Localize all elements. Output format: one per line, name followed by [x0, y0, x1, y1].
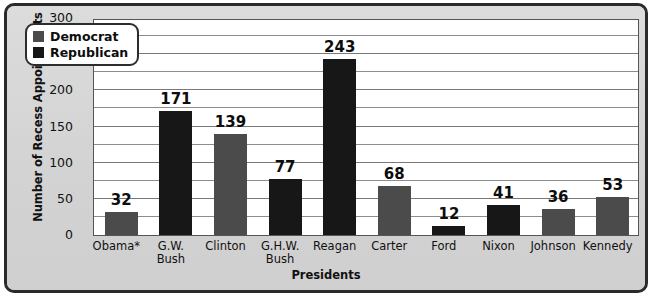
bar-value-label: 36 [528, 188, 589, 206]
bar-value-label: 139 [200, 113, 261, 131]
x-axis-tick-label: Carter [359, 240, 419, 253]
bar-value-label: 32 [91, 191, 152, 209]
bar-group[interactable]: 12 [432, 18, 465, 235]
y-axis-tick-label: 0 [33, 227, 73, 242]
y-axis-tick-label: 50 [33, 191, 73, 206]
bar-group[interactable]: 77 [269, 18, 302, 235]
legend-item-republican: Republican [33, 44, 128, 60]
bar[interactable] [378, 186, 411, 235]
x-axis-tick-label: G.W.Bush [141, 240, 201, 265]
bar-value-label: 68 [364, 165, 425, 183]
y-axis-tick-label: 100 [33, 155, 73, 170]
legend-swatch-republican-icon [33, 47, 44, 58]
legend: Democrat Republican [25, 23, 139, 66]
legend-swatch-democrat-icon [33, 31, 44, 42]
bar[interactable] [432, 226, 465, 235]
chart-screenshot: Number of Recess Appointments Presidents… [0, 0, 652, 299]
x-axis-tick-label: Kennedy [578, 240, 638, 253]
page-frame: Number of Recess Appointments Presidents… [4, 3, 648, 293]
bar-group[interactable]: 53 [596, 18, 629, 235]
legend-label-democrat: Democrat [50, 29, 118, 44]
bar-group[interactable]: 68 [378, 18, 411, 235]
bar-group[interactable]: 41 [487, 18, 520, 235]
bar-group[interactable]: 139 [214, 18, 247, 235]
bar[interactable] [105, 212, 138, 235]
legend-item-democrat: Democrat [33, 28, 128, 44]
bar[interactable] [214, 134, 247, 235]
bar[interactable] [596, 197, 629, 235]
bar-value-label: 12 [418, 205, 479, 223]
x-axis-title: Presidents [7, 268, 645, 282]
bar-group[interactable]: 171 [159, 18, 192, 235]
bar[interactable] [159, 111, 192, 235]
bar[interactable] [542, 209, 575, 235]
x-axis-tick-label: Reagan [305, 240, 365, 253]
x-axis-tick-label: Ford [414, 240, 474, 253]
bar-value-label: 77 [255, 158, 316, 176]
x-axis-tick-label: Johnson [523, 240, 583, 253]
x-axis-tick-label: Nixon [469, 240, 529, 253]
y-axis-tick-label: 200 [33, 82, 73, 97]
bar[interactable] [323, 59, 356, 235]
x-axis-tick-label: G.H.W.Bush [250, 240, 310, 265]
bar-value-label: 41 [473, 184, 534, 202]
x-axis-tick-label: Obama* [86, 240, 146, 253]
bar-group[interactable]: 36 [542, 18, 575, 235]
bar-group[interactable]: 243 [323, 18, 356, 235]
bar-series: 32171139772436812413653 [94, 20, 638, 235]
legend-label-republican: Republican [50, 45, 128, 60]
plot-area: 32171139772436812413653 [93, 19, 639, 236]
bar-value-label: 243 [309, 38, 370, 56]
bar[interactable] [487, 205, 520, 235]
bar[interactable] [269, 179, 302, 235]
x-axis-tick-label: Clinton [196, 240, 256, 253]
bar-value-label: 53 [582, 176, 643, 194]
bar-value-label: 171 [145, 90, 206, 108]
y-axis-tick-label: 150 [33, 119, 73, 134]
